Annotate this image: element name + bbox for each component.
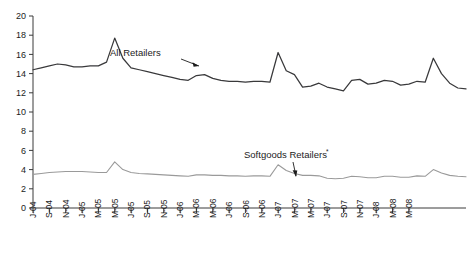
x-axis-tick-label: S-07 — [339, 200, 349, 218]
line-chart: 02468101214161820 J-04S-04N-04J-05M-05M-… — [0, 0, 472, 257]
x-axis-tick-label: J-07 — [322, 201, 332, 218]
x-axis-tick-label: M-07 — [290, 198, 300, 218]
x-axis-tick-label: J-05 — [126, 201, 136, 218]
x-axis-tick-label: S-05 — [142, 200, 152, 218]
y-axis-tick-label: 2 — [21, 184, 26, 194]
annotation-all-retailers-arrowhead — [193, 62, 200, 67]
x-axis-tick-label: M-07 — [306, 198, 316, 218]
y-axis-tick-labels: 02468101214161820 — [16, 11, 26, 213]
x-axis-tick-label: J-06 — [224, 201, 234, 218]
y-axis-tick-label: 4 — [21, 165, 26, 175]
x-axis-tick-label: M-05 — [110, 198, 120, 218]
annotations-group: All Retailers Softgoods Retailers * — [110, 47, 329, 177]
x-axis-tick-label: J-06 — [175, 201, 185, 218]
annotation-softgoods-retailers-superscript: * — [326, 148, 329, 155]
x-axis-tick-label: N-07 — [355, 199, 365, 218]
annotation-all-retailers-label: All Retailers — [110, 47, 161, 58]
series-line-all-retailers — [33, 38, 466, 91]
y-axis-tick-label: 16 — [16, 50, 26, 60]
x-axis-tick-label: J-05 — [77, 201, 87, 218]
y-axis: 02468101214161820 — [16, 11, 33, 213]
series-line-softgoods-retailers — [33, 162, 466, 179]
y-axis-tick-label: 6 — [21, 146, 26, 156]
y-axis-tick-label: 12 — [16, 88, 26, 98]
x-axis-tick-label: J-08 — [371, 201, 381, 218]
y-axis-tick-label: 8 — [21, 126, 26, 136]
x-axis-tick-label: N-04 — [61, 199, 71, 218]
y-axis-tick-label: 10 — [16, 107, 26, 117]
y-axis-tick-label: 20 — [16, 11, 26, 21]
x-axis-tick-label: M-06 — [191, 198, 201, 218]
x-axis-tick-label: S-04 — [44, 200, 54, 218]
y-axis-tick-label: 0 — [21, 203, 26, 213]
annotation-softgoods-retailers-label: Softgoods Retailers — [244, 149, 327, 160]
x-axis-tick-label: M-08 — [388, 198, 398, 218]
x-axis-tick-label: J-07 — [273, 201, 283, 218]
x-axis-tick-label: M-08 — [404, 198, 414, 218]
y-axis-tick-label: 14 — [16, 69, 26, 79]
x-axis-tick-label: J-04 — [28, 201, 38, 218]
x-axis-tick-label: N-05 — [159, 199, 169, 218]
y-axis-tick-label: 18 — [16, 30, 26, 40]
x-axis: J-04S-04N-04J-05M-05M-05J-05S-05N-05J-06… — [28, 198, 466, 218]
x-axis-tick-label: M-06 — [208, 198, 218, 218]
x-axis-ticks — [33, 208, 409, 213]
x-axis-tick-label: S-06 — [241, 200, 251, 218]
y-axis-ticks — [29, 16, 33, 208]
x-axis-tick-label: M-05 — [93, 198, 103, 218]
chart-container: 02468101214161820 J-04S-04N-04J-05M-05M-… — [0, 0, 472, 257]
x-axis-tick-label: N-06 — [257, 199, 267, 218]
